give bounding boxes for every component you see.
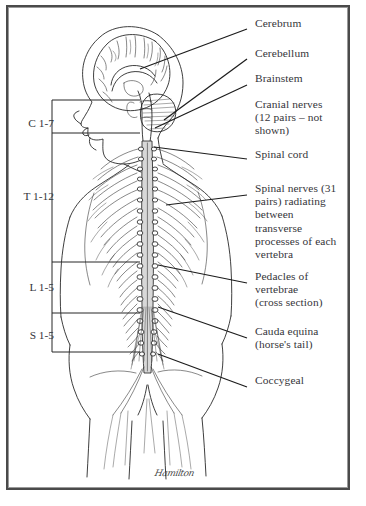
vertebral-label-thoracic: T 1-12 [8,190,54,202]
label-coccygeal: Coccygeal [255,374,304,387]
vertebral-label-cervical: C 1-7 [8,117,54,129]
label-spinal-nerves: Spinal nerves (31 pairs) radiating betwe… [255,182,336,261]
label-cerebellum: Cerebellum [255,47,309,60]
cerebrum [94,35,170,111]
annotation-labels: Cerebrum Cerebellum Brainstem Cranial ne… [247,0,359,506]
artist-signature: Hamilton [154,468,195,478]
label-cauda-equina: Cauda equina (horse's tail) [255,325,319,351]
spinal-cord [142,141,154,373]
vertebral-label-sacral: S 1-5 [8,329,54,341]
vertebral-label-lumbar: L 1-5 [8,281,54,293]
coccygeal-nerves [113,367,182,415]
label-cerebrum: Cerebrum [255,17,301,30]
nervous-system-figure: .ink { fill:none; stroke:#1c1c1c; stroke… [0,0,366,506]
label-spinal-cord: Spinal cord [255,148,308,161]
label-cranial-nerves: Cranial nerves (12 pairs – not shown) [255,98,323,138]
label-brainstem: Brainstem [255,72,303,85]
label-pedacles: Pedacles of vertebrae (cross section) [255,270,323,310]
vertebral-group-labels: C 1-7 T 1-12 L 1-5 S 1-5 [0,0,60,506]
